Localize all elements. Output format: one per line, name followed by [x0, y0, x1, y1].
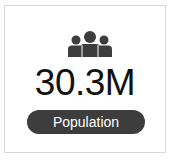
population-stat-card: 30.3M Population [4, 5, 166, 153]
people-group-icon [68, 31, 112, 57]
population-value: 30.3M [5, 63, 165, 103]
population-label-badge: Population [27, 110, 145, 134]
